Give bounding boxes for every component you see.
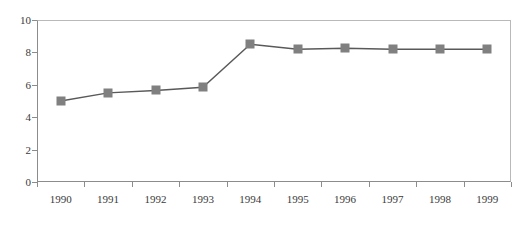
data-point-marker (293, 45, 302, 54)
line-chart-figure: 0246810 19901991199219931994199519961997… (0, 0, 519, 228)
data-point-marker (151, 86, 160, 95)
caption-text (90, 218, 420, 228)
data-point-marker (246, 40, 255, 49)
data-point-marker (56, 97, 65, 106)
data-point-marker (198, 83, 207, 92)
data-point-marker (435, 45, 444, 54)
data-point-marker (104, 88, 113, 97)
data-point-marker (483, 45, 492, 54)
series-polyline (61, 44, 488, 101)
series-line (0, 0, 519, 228)
data-point-marker (341, 44, 350, 53)
data-point-marker (388, 45, 397, 54)
